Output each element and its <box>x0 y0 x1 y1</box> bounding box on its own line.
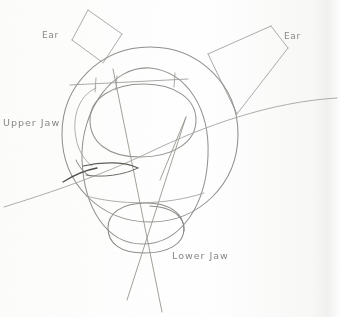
center-construction-lines <box>113 69 186 312</box>
upper-jaw-oval <box>90 84 196 157</box>
label-upper-jaw: Upper Jaw <box>3 117 60 128</box>
label-lower-jaw: Lower Jaw <box>172 250 229 261</box>
label-ear-left: Ear <box>42 30 59 40</box>
guideline-ticks <box>95 73 175 92</box>
lower-chord <box>86 193 204 203</box>
mouth-and-nostril-strokes <box>63 160 138 182</box>
tick-mark-3 <box>174 73 175 87</box>
muzzle-oval <box>82 68 208 244</box>
sketch-canvas: Ear Ear Upper Jaw Lower Jaw <box>0 0 341 317</box>
long-sweep-arc <box>4 98 337 207</box>
tick-mark-1 <box>95 78 96 92</box>
lower-jaw-oval <box>108 203 184 253</box>
pencil-linework <box>0 0 341 317</box>
ear-left-shape <box>72 10 122 63</box>
eye-guideline <box>70 79 188 85</box>
ear-right-shape <box>208 26 288 114</box>
label-ear-right: Ear <box>284 31 301 41</box>
